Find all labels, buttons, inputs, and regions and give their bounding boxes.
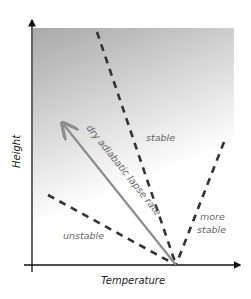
unstable-label: unstable — [63, 230, 104, 241]
more-stable-label-line1: more — [200, 211, 225, 222]
stable-label: stable — [146, 132, 175, 143]
y-axis-label: Height — [11, 134, 22, 168]
x-axis-label: Temperature — [101, 275, 165, 286]
stability-diagram: dry adiabatic lapse rate stable unstable… — [0, 0, 251, 299]
more-stable-label-line2: stable — [197, 224, 226, 235]
